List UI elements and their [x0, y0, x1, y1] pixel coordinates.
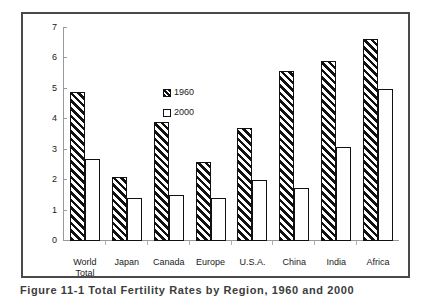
bar-1960-u-s-a [237, 128, 252, 241]
chart-legend: 1960 2000 [163, 88, 194, 117]
bar-2000-world-total [85, 159, 100, 241]
y-axis-tick-label: 5 [41, 84, 57, 93]
x-axis-label-world-total: WorldTotal [64, 257, 106, 279]
bar-1960-europe [196, 162, 211, 241]
x-axis-label-japan: Japan [106, 257, 148, 279]
x-axis-label-line: India [315, 257, 357, 268]
legend-item-1960: 1960 [163, 88, 194, 97]
y-axis-tick-label: 0 [41, 236, 57, 245]
bar-group [232, 28, 274, 241]
bar-2000-europe [211, 198, 226, 241]
plot-area: 01234567 1960 2000 [63, 28, 399, 256]
bar-1960-china [279, 71, 294, 241]
x-axis-label-line: Europe [190, 257, 232, 268]
x-axis-group-tick [189, 241, 190, 245]
x-axis-label-india: India [315, 257, 357, 279]
x-axis-group-tick [231, 241, 232, 245]
legend-swatch-1960 [163, 89, 171, 97]
x-axis-group-tick [314, 241, 315, 245]
bar-1960-india [321, 61, 336, 241]
x-axis-label-africa: Africa [357, 257, 399, 279]
bar-series-container [64, 28, 399, 241]
x-axis-category-labels: WorldTotalJapanCanadaEuropeU.S.A.ChinaIn… [64, 257, 399, 279]
bar-group [357, 28, 399, 241]
legend-item-2000: 2000 [163, 108, 194, 117]
bar-group [106, 28, 148, 241]
x-axis-label-line: World [64, 257, 106, 268]
bar-1960-africa [363, 39, 378, 241]
bar-2000-u-s-a [252, 180, 267, 241]
x-axis-label-line: Canada [148, 257, 190, 268]
bar-1960-world-total [70, 92, 85, 241]
bar-group [64, 28, 106, 241]
x-axis-label-line: Japan [106, 257, 148, 268]
y-axis-tick-label: 2 [41, 175, 57, 184]
y-axis-tick-label: 7 [41, 23, 57, 32]
legend-label-1960: 1960 [174, 88, 194, 97]
x-axis-label-line: Africa [357, 257, 399, 268]
bar-group [273, 28, 315, 241]
x-axis-label-europe: Europe [190, 257, 232, 279]
bar-1960-japan [112, 177, 127, 241]
x-axis-label-canada: Canada [148, 257, 190, 279]
bar-2000-india [336, 147, 351, 241]
bar-group [190, 28, 232, 241]
y-axis-tick-label: 1 [41, 206, 57, 215]
x-axis-label-line: Total [64, 268, 106, 279]
y-axis-tick-label: 6 [41, 53, 57, 62]
x-axis-group-tick [105, 241, 106, 245]
x-axis-group-tick [272, 241, 273, 245]
legend-swatch-2000 [163, 109, 171, 117]
bar-2000-japan [127, 198, 142, 241]
x-axis-group-tick [356, 241, 357, 245]
x-axis-group-tick [147, 241, 148, 245]
bar-group [315, 28, 357, 241]
x-axis-label-china: China [273, 257, 315, 279]
bar-group [148, 28, 190, 241]
figure-frame: 01234567 1960 2000 WorldTotalJapanCanada… [21, 12, 410, 278]
legend-label-2000: 2000 [174, 108, 194, 117]
bar-1960-canada [154, 122, 169, 241]
figure-caption: Figure 11-1 Total Fertility Rates by Reg… [20, 284, 420, 297]
y-axis-tick-label: 3 [41, 145, 57, 154]
bar-2000-canada [169, 195, 184, 241]
x-axis-label-u-s-a: U.S.A. [232, 257, 274, 279]
x-axis-label-line: U.S.A. [232, 257, 274, 268]
bar-2000-africa [378, 89, 393, 241]
y-axis-tick-label: 4 [41, 114, 57, 123]
bar-2000-china [294, 188, 309, 241]
x-axis-label-line: China [273, 257, 315, 268]
